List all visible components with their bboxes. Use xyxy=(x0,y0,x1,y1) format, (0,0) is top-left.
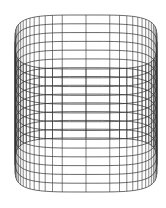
wireframe-canvas xyxy=(0,0,166,208)
vertical-generators xyxy=(15,15,157,192)
